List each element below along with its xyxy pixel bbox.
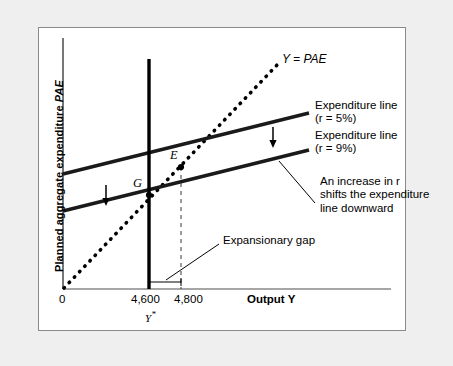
series-label-r9-line2: (r = 9%) bbox=[315, 142, 356, 154]
point-label-e: E bbox=[170, 148, 178, 163]
shift-arrow-right bbox=[269, 127, 276, 148]
shift-note-line2: shifts the expenditure bbox=[320, 188, 429, 200]
y-axis-title-text: Planned aggregate expenditure bbox=[53, 102, 65, 272]
y-axis-title-italic: PAE bbox=[53, 80, 65, 102]
x-tick-4800: 4,800 bbox=[174, 293, 203, 306]
shift-note-leader-line bbox=[279, 161, 315, 203]
series-label-r9-line1: Expenditure line bbox=[315, 129, 397, 141]
series-label-r5-line2: (r = 5%) bbox=[315, 112, 356, 124]
shift-note-line1: An increase in r bbox=[320, 175, 400, 187]
gap-label-leader-line bbox=[166, 244, 219, 280]
figure-frame: Planned aggregate expenditure PAE Output… bbox=[38, 27, 406, 331]
expenditure-line-r9 bbox=[63, 150, 309, 211]
point-label-g: G bbox=[133, 176, 142, 191]
marker-point-g bbox=[146, 192, 152, 198]
shift-note-line3: line downward bbox=[320, 202, 394, 214]
x-tick-4600: 4,600 bbox=[131, 293, 160, 306]
series-label-r9: Expenditure line(r = 9%) bbox=[315, 129, 397, 156]
shift-arrow-left bbox=[102, 185, 109, 206]
potential-output-star: * bbox=[151, 309, 156, 319]
expansionary-gap-bracket bbox=[149, 278, 181, 286]
shift-note: An increase in rshifts the expenditureli… bbox=[320, 175, 429, 215]
x-tick-origin: 0 bbox=[59, 293, 65, 306]
expansionary-gap-label: Expansionary gap bbox=[223, 234, 315, 247]
series-label-r5: Expenditure line(r = 5%) bbox=[315, 99, 397, 126]
x-axis-title: Output Y bbox=[247, 293, 295, 306]
figure-stage: Planned aggregate expenditure PAE Output… bbox=[0, 0, 453, 366]
potential-output-label: Y* bbox=[145, 309, 156, 324]
line-45-degree-y-equals-pae bbox=[64, 65, 277, 288]
marker-point-e bbox=[178, 164, 184, 170]
series-label-r5-line1: Expenditure line bbox=[315, 99, 397, 111]
y-axis-title: Planned aggregate expenditure PAE bbox=[53, 80, 66, 272]
line-45-label: Y = PAE bbox=[282, 53, 327, 67]
